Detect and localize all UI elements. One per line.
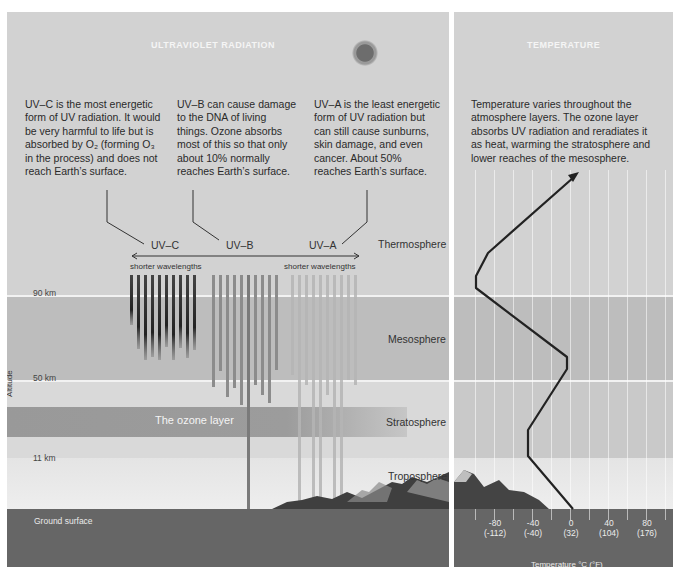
x-tick: -80(-112) [475,518,515,538]
uva-label: UV–A [309,239,336,251]
mesosphere-label: Mesosphere [388,333,446,345]
altitude-axis-label: Altitude [7,370,14,397]
thermosphere-label: Thermosphere [378,238,446,250]
x-tick: -40(-40) [513,518,553,538]
wavelength-label-right: shorter wavelengths [284,262,356,271]
wavelength-label-left: shorter wavelengths [130,262,202,271]
x-tick: 80(176) [627,518,667,538]
troposphere-label: Troposphere [388,470,447,482]
uva-rays [291,275,357,509]
x-tick: 40(104) [589,518,629,538]
uv-panel: ULTRAVIOLET RADIATION UV–C is the most e… [7,12,449,567]
temperature-panel: TEMPERATURE Temperature varies throughou… [454,12,673,567]
temperature-axis-label: Temperature °C (°F) [531,560,603,567]
uvc-rays [130,275,196,360]
stratosphere-label: Stratosphere [386,416,446,428]
x-tick: 0(32) [551,518,591,538]
temperature-curve [454,12,673,567]
altitude-90km: 90 km [33,288,56,298]
altitude-50km: 50 km [33,373,56,383]
ozone-layer-label: The ozone layer [155,414,234,426]
uvc-label: UV–C [151,239,179,251]
uvb-label: UV–B [226,239,253,251]
uvb-rays [212,275,278,509]
ground-surface-label: Ground surface [34,516,93,526]
altitude-11km: 11 km [33,453,56,463]
uv-diagram-lines [7,12,449,567]
